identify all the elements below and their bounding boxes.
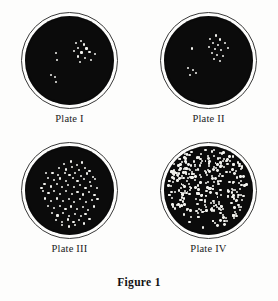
colony [213,58,215,60]
colony [196,203,198,205]
colony [238,206,240,208]
colony [54,76,56,78]
colony [74,224,76,226]
plate-label-4: Plate IV [139,243,278,254]
colony [205,209,207,211]
colony [216,54,218,56]
agar-surface-plate-ii [164,16,253,105]
colony [188,193,191,196]
colony [70,160,72,162]
colony [239,175,242,178]
colony [189,189,191,191]
colony [224,42,226,44]
colony [213,209,215,211]
plate-cell-4: Plate IV [139,138,278,269]
colony [55,81,57,83]
colony [212,185,214,187]
colony [211,177,214,180]
colony [63,163,65,165]
colony [182,177,185,180]
colony [207,155,209,157]
colony [216,224,219,227]
colony [208,162,211,165]
colony [208,165,210,167]
colony [86,172,88,174]
colony [197,192,200,195]
colony [76,208,78,210]
colony [53,207,55,209]
colony [73,186,75,188]
colony [209,38,211,40]
colony [61,224,63,226]
colony [40,187,42,189]
colony [222,208,224,210]
colony [223,223,226,226]
colony [222,216,224,218]
colony [189,186,191,188]
colony [217,196,219,198]
colony [190,164,192,166]
colony [170,170,172,172]
colony [62,212,64,214]
colony [197,168,200,171]
colony [179,199,181,201]
colony [213,149,215,151]
colony [213,155,215,157]
colony [200,153,202,155]
colony [51,172,53,174]
colony [214,48,216,50]
colony [235,200,237,202]
colony [56,214,58,216]
colony [197,212,199,214]
colony [198,216,200,218]
colony [72,221,74,223]
colony [231,191,234,194]
colony [79,198,81,200]
plate-label-3: Plate III [0,243,139,254]
colony [225,171,228,174]
colony [221,175,224,178]
colony [229,160,231,162]
colony [50,185,52,187]
colony [90,185,92,187]
colony [191,173,194,176]
colony [227,47,229,49]
colony [43,183,45,185]
colony [91,199,93,201]
colony [94,178,96,180]
colony [209,191,212,194]
colony [79,61,81,63]
colony [204,149,206,151]
colony [174,207,176,209]
colony [61,221,63,223]
colony [211,52,213,54]
colony [88,218,90,220]
colony [219,219,222,222]
colony [47,192,49,194]
plate-cell-3: Plate III [0,138,139,269]
colony [59,205,61,207]
colony [194,175,197,178]
colony [205,182,207,184]
colony [90,59,92,61]
colony [53,179,55,181]
colony [193,160,196,163]
colony [65,180,67,182]
colony [84,167,86,169]
colony [226,163,228,165]
agar-surface-plate-iv [164,146,253,235]
plate-label-1: Plate I [0,113,139,124]
colony [65,190,67,192]
colony [62,200,64,202]
colony [242,175,245,178]
colony [219,189,221,191]
colony [84,57,86,59]
colony [187,208,189,210]
colony [53,190,55,192]
colony [222,151,225,154]
colony [226,158,229,161]
colony [187,163,190,166]
colony [208,46,210,48]
colony [198,156,200,158]
colony [233,172,236,175]
